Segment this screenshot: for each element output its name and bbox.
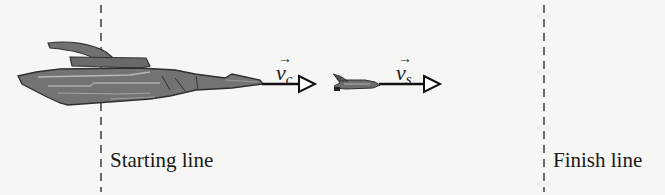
finish-line-label: Finish line	[553, 148, 642, 173]
vector-arrow-icon: →	[278, 51, 292, 67]
diagram: →vc →vs Starting line Finish line	[0, 0, 665, 195]
starting-line-label: Starting line	[110, 148, 213, 173]
velocity-label-cruiser: →vc	[276, 60, 292, 88]
shuttle-ship-icon	[333, 74, 380, 91]
cruiser-ship-icon	[18, 42, 263, 105]
velocity-label-shuttle: →vs	[396, 60, 412, 88]
vector-arrow-icon: →	[398, 51, 412, 67]
